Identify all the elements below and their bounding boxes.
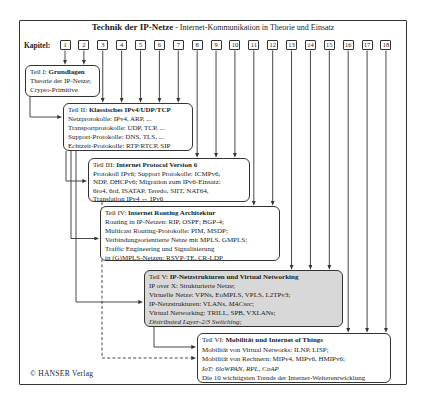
part-title-text: Internet Routing Architektur (128, 209, 215, 217)
part-line: Die 10 wichtigsten Trends der Internet-W… (202, 374, 388, 384)
part-line: IP over X: Strukturierte Netze; (149, 282, 340, 291)
part-line: Multicast Routing-Protokolle: PIM, MSDP; (105, 227, 277, 236)
part-title-prefix: Teil II: (68, 106, 89, 114)
text-run: Protokoll IPv6; Support Protokolle: ICMP… (93, 170, 220, 178)
part-title: Teil III: Internet Protocol Version 6 (93, 161, 247, 170)
part-line: IP-Netzstrukturen: VLANs, MACsec; (149, 300, 340, 309)
chapter-box-5: 5 (135, 40, 146, 50)
chapter-box-7: 7 (173, 40, 184, 50)
text-run: in (G)MPLS-Netzen: RSVP-TE, CR-LDP (105, 254, 223, 262)
text-run: Virtuelle Netze: VPNs, EoMPLS, VPLS, L2T… (149, 291, 290, 299)
part-box-2: Teil II: Klassisches IPv4/UDP/TCPNetzpro… (63, 103, 193, 151)
chapter-box-11: 11 (248, 40, 259, 50)
chapter-box-13: 13 (286, 40, 297, 50)
chapter-box-6: 6 (154, 40, 165, 50)
figure-title: Technik der IP-Netze - Internet-Kommunik… (19, 22, 407, 32)
text-run: Transportprotokolle: UDP, TCP, ... (68, 124, 165, 132)
text-run: Virtual Networking: TRILL, SPB, VXLANs; (149, 309, 276, 317)
part-title: Teil VI: Mobilität und Internet of Thing… (202, 336, 388, 346)
chapter-box-2: 2 (78, 40, 89, 50)
text-run: Crypto-Primitive (30, 86, 78, 94)
part-line: Routing in IP-Netzen: RIP, OSPF; BGP-4; (105, 218, 277, 227)
text-run: Support-Protokolle: DNS, TLS, ... (68, 133, 164, 141)
kapitel-label: Kapitel: (24, 41, 50, 50)
text-run: IP over X: Strukturierte Netze; (149, 282, 235, 290)
chapter-box-9: 9 (211, 40, 222, 50)
chapter-box-10: 10 (229, 40, 240, 50)
figure-title-main: Technik der IP-Netze (92, 22, 174, 32)
part-title-prefix: Teil III: (93, 161, 116, 169)
part-line: Mobilität von Rechnern: MIPv4, MIPv6, HM… (202, 355, 388, 365)
text-run: IoT: 6loWPAN, RPL, CoAP (202, 365, 279, 373)
text-run: Multicast Routing-Protokolle: PIM, MSDP; (105, 227, 228, 235)
chapter-box-8: 8 (192, 40, 203, 50)
part-line: Mobilität von Virtual Networks: ILNP, LI… (202, 346, 388, 356)
part-line: Verbindungsorientierte Netze mit MPLS, G… (105, 236, 277, 245)
part-title: Teil IV: Internet Routing Architektur (105, 209, 277, 218)
part-title-text: Mobilität und Internet of Things (226, 336, 324, 344)
part-line: IoT: 6loWPAN, RPL, CoAP (202, 365, 388, 375)
chapter-box-3: 3 (97, 40, 108, 50)
text-run: Netzprotokolle: IPv4, ARP, ... (68, 115, 152, 123)
part-box-4: Teil IV: Internet Routing ArchitekturRou… (100, 206, 280, 261)
text-run: Mobilität von Rechnern: MIPv4, MIPv6, HM… (202, 355, 345, 363)
part-title: Teil II: Klassisches IPv4/UDP/TCP (68, 106, 190, 115)
part-line: in (G)MPLS-Netzen: RSVP-TE, CR-LDP (105, 254, 277, 263)
chapter-box-15: 15 (324, 40, 335, 50)
text-run: ; (252, 300, 254, 308)
part-line: Protokoll IPv6; Support Protokolle: ICMP… (93, 170, 247, 179)
text-run: Theorie der IP-Netze; (30, 77, 91, 85)
text-run: Die 10 wichtigsten Trends der Internet-W… (202, 374, 365, 382)
text-run: Verbindungsorientierte Netze mit MPLS, G… (105, 236, 247, 244)
figure-title-subtitle: - Internet-Kommunikation in Theorie und … (173, 23, 334, 32)
part-title-text: IP-Netzstrukturen und Virtual Networking (170, 273, 299, 281)
text-run: Traffic Engineering und Signalisierung (105, 245, 214, 253)
part-line: Transportprotokolle: UDP, TCP, ... (68, 124, 190, 133)
part-box-5: Teil V: IP-Netzstrukturen und Virtual Ne… (144, 270, 343, 327)
chapter-box-1: 1 (60, 40, 71, 50)
part-line: Translation IPv4 ↔ IPv6 (93, 195, 247, 204)
part-line: Crypto-Primitive (30, 86, 97, 95)
part-line: Traffic Engineering und Signalisierung (105, 245, 277, 254)
text-run: Routing in IP-Netzen: RIP, OSPF; BGP-4; (105, 218, 224, 226)
part-line: Virtual Networking: TRILL, SPB, VXLANs; (149, 309, 340, 318)
book-structure-figure: Technik der IP-Netze - Internet-Kommunik… (0, 0, 424, 408)
chapter-box-14: 14 (305, 40, 316, 50)
part-box-1: Teil I: GrundlagenTheorie der IP-Netze;C… (25, 65, 100, 97)
text-run: Distributed Layer-2/3 Switching; (149, 318, 242, 326)
part-line: Netzprotokolle: IPv4, ARP, ... (68, 115, 190, 124)
chapter-box-17: 17 (362, 40, 373, 50)
part-line: Distributed Layer-2/3 Switching; (149, 318, 340, 327)
text-run: IP-Netzstrukturen: VLANs, (149, 300, 228, 308)
part-title-prefix: Teil VI: (202, 336, 226, 344)
chapter-box-18: 18 (380, 40, 391, 50)
chapter-box-16: 16 (343, 40, 354, 50)
copyright-notice: © HANSER Verlag (30, 369, 93, 378)
part-title-prefix: Teil IV: (105, 209, 128, 217)
part-title: Teil I: Grundlagen (30, 68, 97, 77)
part-title-prefix: Teil V: (149, 273, 170, 281)
part-title-text: Klassisches IPv4/UDP/TCP (89, 106, 171, 114)
text-run: Mobilität von Virtual Networks: ILNP, LI… (202, 346, 329, 354)
part-line: Echtzeit-Protokolle: RTP/RTCP, SIP (68, 142, 190, 151)
part-title-text: Grundlagen (49, 68, 85, 76)
part-box-3: Teil III: Internet Protocol Version 6Pro… (88, 158, 250, 202)
part-line: Theorie der IP-Netze; (30, 77, 97, 86)
part-title-text: Internet Protocol Version 6 (116, 161, 197, 169)
chapter-box-4: 4 (116, 40, 127, 50)
part-title-prefix: Teil I: (30, 68, 49, 76)
part-line: 6to4, 6rd, ISATAP, Teredo, SIIT, NAT64, (93, 187, 247, 196)
text-run: NDP, DHCPv6; Migration zum IPv6-Einsatz: (93, 178, 221, 186)
part-line: NDP, DHCPv6; Migration zum IPv6-Einsatz: (93, 178, 247, 187)
text-run: Translation IPv4 ↔ IPv6 (93, 195, 163, 203)
text-run: Echtzeit-Protokolle: RTP/RTCP, SIP (68, 142, 170, 150)
part-line: Virtuelle Netze: VPNs, EoMPLS, VPLS, L2T… (149, 291, 340, 300)
part-title: Teil V: IP-Netzstrukturen und Virtual Ne… (149, 273, 340, 282)
chapter-box-12: 12 (267, 40, 278, 50)
part-box-6: Teil VI: Mobilität und Internet of Thing… (197, 333, 391, 383)
text-run: 6to4, 6rd, ISATAP, Teredo, SIIT, NAT64, (93, 187, 209, 195)
text-run: MACsec (228, 300, 252, 308)
part-line: Support-Protokolle: DNS, TLS, ... (68, 133, 190, 142)
